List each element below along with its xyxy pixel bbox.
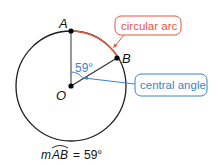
arc-ab	[71, 31, 118, 58]
angle-callout-pointer	[84, 78, 135, 84]
angle-label: 59°	[75, 61, 93, 75]
label-a: A	[58, 16, 68, 31]
point-a	[68, 28, 73, 33]
label-b: B	[122, 51, 131, 66]
arc-callout-label: circular arc	[121, 20, 177, 32]
arc-callout-pointer	[115, 35, 124, 46]
circle-diagram: A B O 59° circular arc central angle m A…	[0, 0, 218, 165]
measure-value: 59°	[84, 148, 102, 162]
point-b	[114, 55, 119, 60]
angle-callout-label: central angle	[140, 79, 206, 91]
measure-arc: AB	[51, 148, 68, 162]
measure-prefix: m	[41, 148, 51, 162]
point-o	[68, 83, 73, 88]
label-o: O	[56, 88, 66, 103]
measure-equals: =	[73, 148, 80, 162]
arc-measure: m AB = 59°	[41, 146, 102, 163]
